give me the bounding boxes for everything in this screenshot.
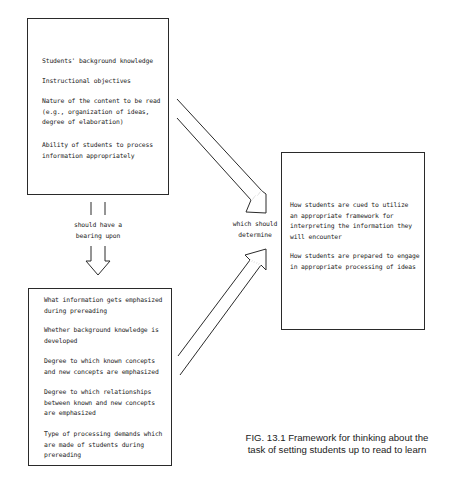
decision-processing-demands: Type of processing demands which are mad… bbox=[44, 429, 162, 461]
decision-information-emphasized: What information gets emphasized during … bbox=[44, 295, 162, 316]
prereading-decisions-box: What information gets emphasized during … bbox=[28, 288, 172, 466]
decision-concepts-emphasized: Degree to which known concepts and new c… bbox=[44, 356, 159, 377]
factor-background-knowledge: Students' background knowledge bbox=[42, 56, 153, 67]
factor-nature-of-content: Nature of the content to be read (e.g., … bbox=[42, 96, 160, 128]
outcome-processing-preparation: How students are prepared to engage in a… bbox=[290, 251, 419, 272]
figure-caption: FIG. 13.1 Framework for thinking about t… bbox=[222, 432, 450, 456]
factor-student-ability: Ability of students to process informati… bbox=[42, 140, 153, 161]
outcomes-box: How students are cued to utilize an appr… bbox=[281, 152, 425, 330]
factor-instructional-objectives: Instructional objectives bbox=[42, 76, 131, 87]
which-should-determine-label: which should determine bbox=[225, 219, 285, 240]
arrow-down-right-icon bbox=[177, 99, 266, 213]
context-factors-box: Students' background knowledge Instructi… bbox=[27, 18, 169, 195]
outcome-framework-cueing: How students are cued to utilize an appr… bbox=[290, 200, 412, 242]
should-have-bearing-label: should have a bearing upon bbox=[62, 220, 134, 241]
decision-background-developed: Whether background knowledge is develope… bbox=[44, 325, 159, 346]
decision-relationships-emphasized: Degree to which relationships between kn… bbox=[44, 387, 155, 419]
arrow-up-right-icon bbox=[178, 249, 266, 375]
